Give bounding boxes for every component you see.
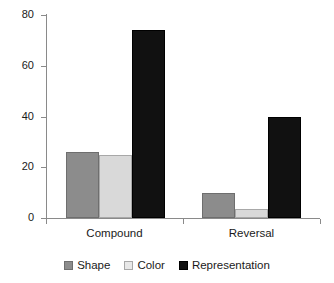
bar-chart: 020406080 Compound Reversal Shape Color … — [0, 0, 334, 283]
bar-compound-shape — [66, 152, 99, 218]
legend-label-shape: Shape — [77, 259, 110, 271]
legend-item-representation: Representation — [179, 259, 270, 271]
bar-reversal-color — [235, 209, 268, 218]
bar-group-reversal — [184, 15, 321, 218]
plot-area — [47, 15, 320, 218]
x-axis-label-reversal: Reversal — [183, 227, 320, 240]
x-axis-tick-separator — [183, 219, 184, 224]
legend-swatch-color-icon — [124, 261, 133, 270]
y-axis-tick-80 — [41, 15, 46, 16]
bar-reversal-representation — [268, 117, 301, 219]
legend-item-color: Color — [124, 259, 164, 271]
legend-label-color: Color — [137, 259, 164, 271]
legend-item-shape: Shape — [64, 259, 110, 271]
y-axis-tick-label-60: 60 — [6, 60, 34, 71]
x-axis-tick-end — [320, 219, 321, 224]
bar-group-compound — [47, 15, 184, 218]
bar-reversal-shape — [202, 193, 235, 218]
x-axis-tick-start — [46, 219, 47, 224]
y-axis-tick-label-0: 0 — [6, 212, 34, 223]
y-axis-tick-label-20: 20 — [6, 161, 34, 172]
y-axis-tick-20 — [41, 167, 46, 168]
legend-swatch-shape-icon — [64, 261, 73, 270]
y-axis-tick-60 — [41, 66, 46, 67]
y-axis-tick-40 — [41, 117, 46, 118]
y-axis-tick-label-80: 80 — [6, 9, 34, 20]
bar-compound-representation — [132, 30, 165, 218]
chart-legend: Shape Color Representation — [0, 259, 334, 271]
y-axis-tick-label-40: 40 — [6, 111, 34, 122]
legend-swatch-representation-icon — [179, 261, 188, 270]
bar-compound-color — [99, 155, 132, 218]
x-axis-label-compound: Compound — [46, 227, 183, 240]
legend-label-representation: Representation — [192, 259, 270, 271]
